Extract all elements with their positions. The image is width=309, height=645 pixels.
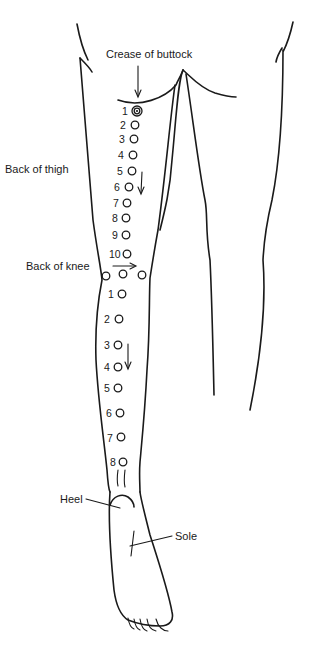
calf-point-1: 1 xyxy=(108,288,126,300)
thigh-point-9: 9 xyxy=(112,229,130,241)
knee-point-center xyxy=(119,270,127,278)
svg-text:6: 6 xyxy=(114,181,120,193)
calf-point-7: 7 xyxy=(107,432,125,444)
svg-text:5: 5 xyxy=(104,382,110,394)
thigh-point-6: 6 xyxy=(114,181,133,193)
thigh-point-4: 4 xyxy=(118,149,137,161)
label-crease-of-buttock: Crease of buttock xyxy=(106,48,193,60)
arrow-back-of-knee xyxy=(113,263,136,269)
svg-text:8: 8 xyxy=(112,212,118,224)
leg-reflexology-diagram: Crease of buttock Back of thigh Back of … xyxy=(0,0,309,645)
calf-point-8: 8 xyxy=(110,456,127,468)
knee-point-medial xyxy=(138,271,146,279)
thigh-point-3: 3 xyxy=(119,133,138,145)
thigh-point-1: 1 xyxy=(122,105,142,117)
sole-mark xyxy=(131,531,134,556)
label-sole: Sole xyxy=(175,530,197,542)
thigh-point-5: 5 xyxy=(117,165,136,177)
arrow-thigh-direction xyxy=(138,172,144,194)
arrow-crease-of-buttock xyxy=(135,66,141,97)
leader-heel xyxy=(86,499,120,508)
svg-text:2: 2 xyxy=(104,313,110,325)
svg-text:3: 3 xyxy=(119,133,125,145)
svg-text:9: 9 xyxy=(112,229,118,241)
calf-point-3: 3 xyxy=(104,339,122,351)
left-leg-outline xyxy=(77,24,183,631)
thigh-points: 1 2 3 4 5 6 7 8 xyxy=(109,105,142,260)
label-heel: Heel xyxy=(60,493,83,505)
arrow-calf-direction xyxy=(125,344,131,369)
thigh-point-10: 10 xyxy=(109,248,131,260)
svg-text:3: 3 xyxy=(104,339,110,351)
calf-point-5: 5 xyxy=(104,382,122,394)
thigh-point-2: 2 xyxy=(120,119,139,131)
svg-text:7: 7 xyxy=(107,432,113,444)
thigh-point-8: 8 xyxy=(112,212,130,224)
label-back-of-thigh: Back of thigh xyxy=(5,163,69,175)
svg-text:8: 8 xyxy=(110,456,116,468)
svg-text:10: 10 xyxy=(109,248,121,260)
calf-point-6: 6 xyxy=(106,407,124,419)
svg-text:5: 5 xyxy=(117,165,123,177)
label-back-of-knee: Back of knee xyxy=(26,260,90,272)
calf-point-4: 4 xyxy=(104,361,122,373)
calf-point-2: 2 xyxy=(104,313,123,325)
knee-point-lateral xyxy=(102,272,110,280)
svg-text:4: 4 xyxy=(118,149,124,161)
right-leg-outline xyxy=(160,22,293,410)
svg-text:7: 7 xyxy=(113,197,119,209)
thigh-point-7: 7 xyxy=(113,197,131,209)
svg-text:2: 2 xyxy=(120,119,126,131)
svg-text:1: 1 xyxy=(122,105,128,117)
svg-text:1: 1 xyxy=(108,288,114,300)
calf-points: 1 2 3 4 5 6 7 8 xyxy=(104,288,127,468)
knee-points xyxy=(102,270,146,280)
svg-text:4: 4 xyxy=(104,361,110,373)
svg-text:6: 6 xyxy=(106,407,112,419)
